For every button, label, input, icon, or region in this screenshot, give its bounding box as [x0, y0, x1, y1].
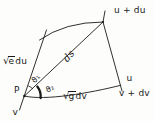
v-plus-dv-curve-line — [103, 11, 122, 91]
u-curve-label: u — [127, 74, 133, 83]
point-p-dot — [23, 95, 26, 98]
sqrt-g-dv-differential: dv — [76, 91, 87, 101]
theta1-angle-arc — [29, 86, 33, 89]
sqrt-g-radicand: g — [68, 91, 75, 101]
sqrt-e-radical: √e — [3, 56, 15, 66]
point-p-label: P — [14, 86, 20, 95]
sqrt-e-du-length-label: √edu — [3, 56, 27, 66]
sqrt-e-du-differential: du — [15, 56, 27, 66]
u-plus-du-junction-dot — [102, 21, 104, 23]
u-plus-du-curve-label: u + du — [114, 6, 146, 15]
v-plus-dv-curve-label: v + dv — [119, 89, 150, 98]
theta2-angle-arc — [37, 87, 40, 99]
curvilinear-coordinates-diagram: P v u + du u v + dv ds ϑ₁ ϑ₂ √edu √gdv — [0, 0, 155, 121]
sqrt-g-dv-length-label: √gdv — [63, 91, 87, 101]
sqrt-g-radical: √g — [63, 91, 76, 101]
v-curve-label: v — [13, 108, 19, 117]
